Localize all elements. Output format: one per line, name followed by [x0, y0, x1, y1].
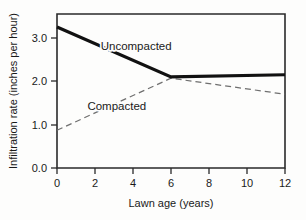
x-tick-label-4: 4	[130, 177, 136, 189]
x-axis-title: Lawn age (years)	[129, 197, 214, 209]
annotation-uncompacted-label: Uncompacted	[101, 40, 172, 52]
x-axis-ticks	[57, 168, 285, 174]
y-axis-ticks	[51, 38, 57, 168]
plot-frame	[57, 14, 285, 168]
x-tick-label-6: 6	[168, 177, 174, 189]
infiltration-rate-line-chart: 3.0 2.0 1.0 0.0 0 2 4 6 8 10 12 Lawn age…	[0, 0, 306, 220]
y-axis-tick-labels: 3.0 2.0 1.0 0.0	[32, 32, 47, 174]
x-tick-label-8: 8	[206, 177, 212, 189]
y-tick-label-2: 2.0	[32, 75, 47, 87]
annotation-compacted: Compacted Compacted	[87, 100, 146, 112]
y-axis-title: Infiltration rate (inches per hour)	[7, 13, 19, 169]
y-tick-label-3: 3.0	[32, 32, 47, 44]
y-tick-label-1: 1.0	[32, 119, 47, 131]
chart-page: 3.0 2.0 1.0 0.0 0 2 4 6 8 10 12 Lawn age…	[0, 0, 306, 220]
y-tick-label-0: 0.0	[32, 162, 47, 174]
x-axis-tick-labels: 0 2 4 6 8 10 12	[54, 177, 291, 189]
annotation-uncompacted: Uncompacted Uncompacted	[101, 40, 172, 52]
annotation-compacted-label: Compacted	[87, 100, 146, 112]
x-tick-label-2: 2	[92, 177, 98, 189]
x-tick-label-12: 12	[279, 177, 291, 189]
x-tick-label-10: 10	[241, 177, 253, 189]
x-tick-label-0: 0	[54, 177, 60, 189]
